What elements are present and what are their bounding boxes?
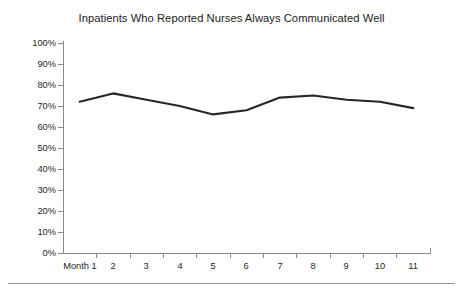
data-series-line [0,0,463,296]
chart-figure: Inpatients Who Reported Nurses Always Co… [0,0,463,296]
data-line-path [80,93,414,114]
bottom-divider [8,283,455,284]
